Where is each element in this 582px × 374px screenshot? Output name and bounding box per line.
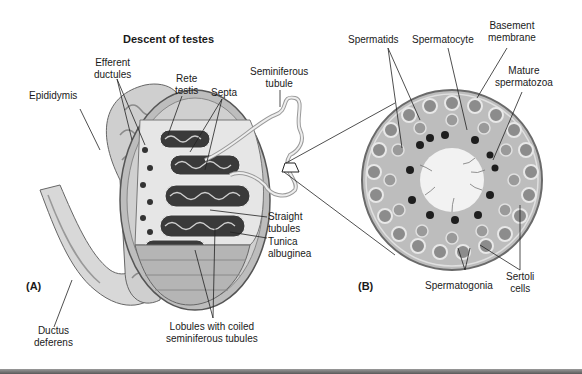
label-line: spermatozoa <box>495 77 553 89</box>
label-spermatogonia: Spermatogonia <box>425 280 493 292</box>
label-basement-membrane: Basement membrane <box>488 20 536 44</box>
label-line: tubules <box>268 223 302 235</box>
label-epididymis: Epididymis <box>29 90 77 102</box>
lumen <box>420 148 484 212</box>
label-sertoli-cells: Sertoli cells <box>506 271 534 295</box>
label-line: Seminiferous <box>250 66 308 78</box>
label-line: Sertoli <box>506 271 534 283</box>
label-mature-spermatozoa: Mature spermatozoa <box>495 65 553 89</box>
label-line: Rete <box>175 73 198 85</box>
label-line: ductules <box>94 69 131 81</box>
label-line: albuginea <box>268 248 311 260</box>
anatomy-illustration <box>0 0 582 374</box>
label-efferent-ductules: Efferent ductules <box>94 57 131 81</box>
bottom-border <box>0 369 582 374</box>
label-line: Lobules with coiled <box>166 321 258 333</box>
label-straight-tubules: Straight tubules <box>268 211 302 235</box>
label-line: cells <box>506 283 534 295</box>
label-line: Tunica <box>268 236 311 248</box>
label-line: Efferent <box>94 57 131 69</box>
label-spermatocyte: Spermatocyte <box>412 34 474 46</box>
label-line: seminiferous tubules <box>166 333 258 345</box>
label-line: membrane <box>488 32 536 44</box>
label-line: tubule <box>250 78 308 90</box>
section-marker <box>282 163 299 172</box>
panel-label-a: (A) <box>26 280 41 292</box>
label-line: testis <box>175 85 198 97</box>
label-seminiferous-tubule: Seminiferous tubule <box>250 66 308 90</box>
label-line: Basement <box>488 20 536 32</box>
label-line: Ductus <box>34 325 73 337</box>
label-tunica-albuginea: Tunica albuginea <box>268 236 311 260</box>
label-line: deferens <box>34 337 73 349</box>
panel-label-b: (B) <box>358 280 373 292</box>
label-lobules: Lobules with coiled seminiferous tubules <box>166 321 258 345</box>
label-ductus-deferens: Ductus deferens <box>34 325 73 349</box>
figure-title: Descent of testes <box>123 33 214 45</box>
label-line: Straight <box>268 211 302 223</box>
label-line: Mature <box>495 65 553 77</box>
label-rete-testis: Rete testis <box>175 73 198 97</box>
label-spermatids: Spermatids <box>348 34 399 46</box>
label-septa: Septa <box>211 87 237 99</box>
